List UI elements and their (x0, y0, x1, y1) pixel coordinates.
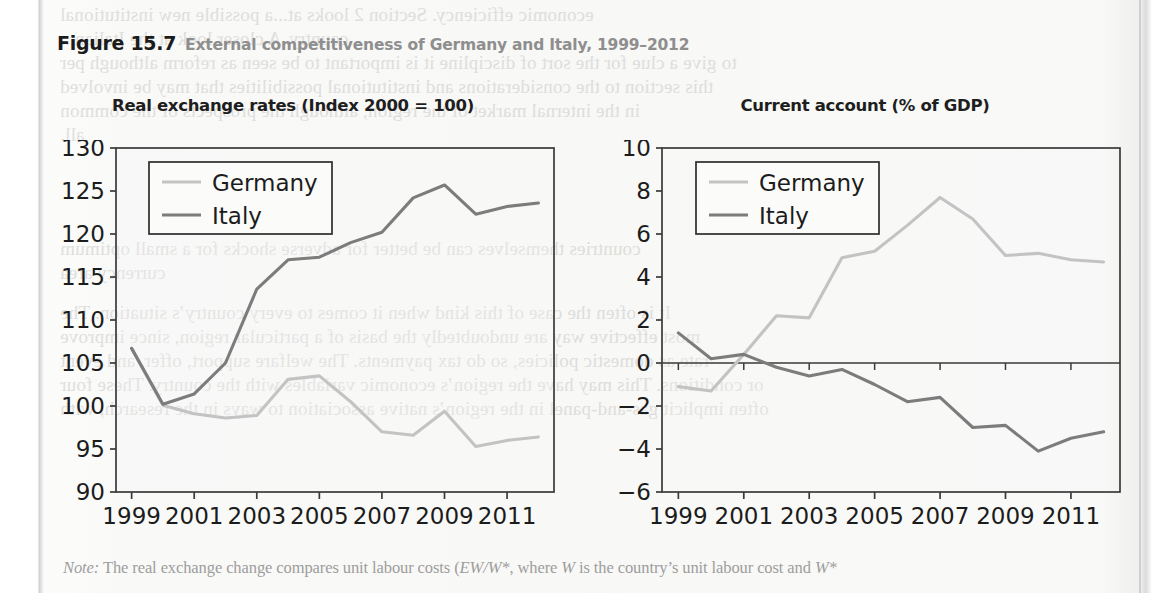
x-axis-label: 2009 (976, 503, 1035, 529)
note-text-3: is the country’s unit labour cost and (575, 558, 815, 577)
note-label: Note: (63, 558, 99, 577)
y-axis-label: −4 (617, 436, 651, 462)
figure-caption: Figure 15.7 External competitiveness of … (57, 32, 689, 54)
x-axis-label: 2005 (290, 503, 349, 529)
x-axis-label: 2001 (165, 503, 224, 529)
y-axis-label: 105 (61, 350, 105, 376)
x-axis-label: 1999 (649, 503, 708, 529)
legend-label-germany: Germany (212, 170, 318, 196)
y-axis-label: 8 (636, 178, 651, 204)
chart-svg-real-exchange-rates: 9095100105110115120125130199920012003200… (24, 140, 562, 540)
x-axis-label: 2003 (228, 503, 287, 529)
plot-area-real-exchange-rates: 9095100105110115120125130199920012003200… (24, 140, 562, 540)
note-math-3: W* (815, 558, 837, 577)
y-axis-label: 95 (76, 436, 105, 462)
y-axis-label: 90 (76, 479, 105, 505)
figure-number: Figure 15.7 (57, 32, 176, 54)
plot-area-current-account: −6−4−20246810199920012003200520072009201… (600, 140, 1130, 540)
figure-note: Note: The real exchange change compares … (63, 558, 837, 578)
y-axis-label: 4 (636, 264, 651, 290)
note-math-2: W (561, 558, 575, 577)
x-axis-label: 1999 (102, 503, 161, 529)
note-math-1: EW/W* (460, 558, 510, 577)
legend-label-italy: Italy (759, 203, 809, 229)
x-axis-label: 2007 (353, 503, 412, 529)
x-axis-label: 2011 (1042, 503, 1101, 529)
page-right-rule (1139, 0, 1141, 593)
x-axis-label: 2007 (911, 503, 970, 529)
y-axis-label: −2 (617, 393, 651, 419)
y-axis-label: −6 (617, 479, 651, 505)
panel-title-real-exchange-rates: Real exchange rates (Index 2000 = 100) (24, 96, 562, 115)
y-axis-label: 120 (61, 221, 105, 247)
note-text-1: The real exchange change compares unit l… (99, 558, 459, 577)
legend-label-italy: Italy (212, 203, 262, 229)
x-axis-label: 2009 (415, 503, 474, 529)
y-axis-label: 110 (61, 307, 105, 333)
x-axis-label: 2005 (845, 503, 904, 529)
y-axis-label: 115 (61, 264, 105, 290)
x-axis-label: 2001 (715, 503, 774, 529)
chart-legend: GermanyItaly (696, 162, 879, 234)
legend-label-germany: Germany (759, 170, 865, 196)
y-axis-label: 0 (636, 350, 651, 376)
y-axis-label: 125 (61, 178, 105, 204)
figure-page: economic efficiency. Section 2 looks at.… (0, 0, 1158, 593)
note-text-2: , where (509, 558, 561, 577)
y-axis-label: 130 (61, 140, 105, 161)
x-axis-label: 2003 (780, 503, 839, 529)
chart-svg-current-account: −6−4−20246810199920012003200520072009201… (600, 140, 1130, 540)
y-axis-label: 2 (636, 307, 651, 333)
y-axis-label: 100 (61, 393, 105, 419)
figure-title: External competitiveness of Germany and … (185, 36, 689, 54)
y-axis-label: 10 (622, 140, 651, 161)
panel-title-current-account: Current account (% of GDP) (600, 96, 1130, 115)
y-axis-label: 6 (636, 221, 651, 247)
chart-legend: GermanyItaly (149, 162, 332, 234)
x-axis-label: 2011 (478, 503, 537, 529)
